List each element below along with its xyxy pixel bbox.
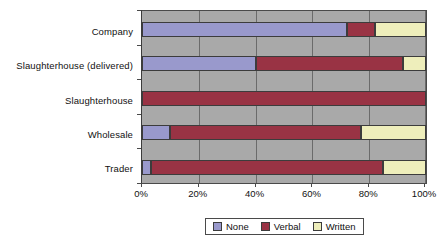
x-axis-label-100: 100% xyxy=(404,188,443,200)
bar-row-trader xyxy=(142,160,426,175)
bar-segment-none xyxy=(142,22,347,37)
bar-segment-none xyxy=(142,125,170,140)
legend-label-verbal: Verbal xyxy=(274,221,301,232)
y-axis-label-2: Slaughterhouse xyxy=(0,95,133,106)
x-axis-tick-20 xyxy=(198,183,199,187)
bar-row-wholesale xyxy=(142,125,426,140)
bar-row-company xyxy=(142,22,426,37)
legend-swatch-none-icon xyxy=(213,222,222,231)
bar-segment-written xyxy=(403,56,426,71)
legend-swatch-verbal-icon xyxy=(261,222,270,231)
bar-segment-verbal xyxy=(142,91,426,106)
y-axis-category-labels: Company Slaughterhouse (delivered) Slaug… xyxy=(0,10,137,182)
y-axis-label-3: Wholesale xyxy=(0,129,133,140)
x-axis-label-20: 20% xyxy=(178,188,218,200)
stacked-bar-chart: Company Slaughterhouse (delivered) Slaug… xyxy=(0,0,443,246)
x-axis-tick-0 xyxy=(141,183,142,187)
plot-area xyxy=(141,10,427,184)
bar-row-slaughterhouse xyxy=(142,91,426,106)
legend-item-verbal[interactable]: Verbal xyxy=(261,221,301,232)
x-axis-tick-40 xyxy=(255,183,256,187)
y-axis-label-1: Slaughterhouse (delivered) xyxy=(0,60,133,71)
bar-segment-none xyxy=(142,160,151,175)
bar-segment-verbal xyxy=(151,160,384,175)
y-axis-label-0: Company xyxy=(0,26,133,37)
x-axis-tick-60 xyxy=(311,183,312,187)
bar-row-slaughterhouse-delivered xyxy=(142,56,426,71)
legend-label-none: None xyxy=(226,221,249,232)
y-axis-label-4: Trader xyxy=(0,163,133,174)
x-axis-label-40: 40% xyxy=(235,188,275,200)
bar-segment-written xyxy=(361,125,426,140)
legend-swatch-written-icon xyxy=(313,222,322,231)
x-axis-tick-100 xyxy=(424,183,425,187)
bar-segment-verbal xyxy=(256,56,404,71)
x-axis-label-0: 0% xyxy=(121,188,161,200)
legend-label-written: Written xyxy=(326,221,356,232)
x-axis-tick-80 xyxy=(368,183,369,187)
bar-segment-verbal xyxy=(347,22,375,37)
bar-segment-written xyxy=(375,22,426,37)
x-axis-label-60: 60% xyxy=(291,188,331,200)
x-axis-labels: 0% 20% 40% 60% 80% 100% xyxy=(0,188,443,202)
bar-segment-none xyxy=(142,56,256,71)
legend-item-none[interactable]: None xyxy=(213,221,249,232)
chart-legend: None Verbal Written xyxy=(205,218,364,235)
y-axis-line xyxy=(141,10,142,183)
legend-item-written[interactable]: Written xyxy=(313,221,356,232)
x-axis-label-80: 80% xyxy=(348,188,388,200)
bar-segment-verbal xyxy=(170,125,360,140)
bar-segment-written xyxy=(383,160,426,175)
